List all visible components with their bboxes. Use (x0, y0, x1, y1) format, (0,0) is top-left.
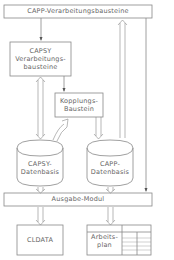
coupling-line2: Baustein (55, 105, 103, 113)
coupling-label: Kopplungs- Baustein (55, 97, 103, 113)
coupling-line1: Kopplungs- (55, 97, 103, 105)
capp-db-line2: Datenbasis (87, 168, 133, 176)
capsy-db-label: CAPSY- Datenbasis (17, 160, 63, 176)
capsy-line2: Verarbeitungs- (10, 55, 71, 63)
capsy-db-line2: Datenbasis (17, 168, 63, 176)
capsy-db-line1: CAPSY- (17, 160, 63, 168)
capsy-line1: CAPSY (10, 47, 71, 55)
workplan-line2: plan (87, 241, 122, 249)
workplan-label: Arbeits- plan (87, 233, 122, 249)
capp-modules-label: CAPP-Verarbeitungsbausteine (4, 7, 152, 15)
diagram-canvas (0, 0, 174, 260)
capsy-modules-label: CAPSY Verarbeitungs- bausteine (10, 47, 71, 71)
capsy-line3: bausteine (10, 63, 71, 71)
capp-db-line1: CAPP- (87, 160, 133, 168)
output-module-label: Ausgabe-Modul (4, 195, 152, 203)
workplan-line1: Arbeits- (87, 233, 122, 241)
cldata-label: CLDATA (17, 236, 63, 244)
capp-db-label: CAPP- Datenbasis (87, 160, 133, 176)
